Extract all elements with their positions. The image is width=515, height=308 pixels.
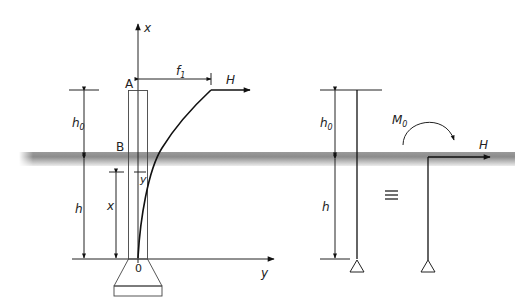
pile-diagram: x y 0 A B H f1 h0 h (0, 0, 515, 308)
middle-h0-label: h0 (320, 116, 333, 132)
equivalence-sign (385, 191, 398, 199)
y-deflection-label: y (139, 173, 147, 186)
moment-label: M0 (392, 113, 407, 129)
middle-figure: h0 h (320, 90, 382, 272)
point-a-label: A (125, 77, 134, 91)
h0-label: h0 (72, 116, 85, 132)
deflection-curve (138, 90, 211, 258)
right-pin-support-icon (421, 260, 435, 272)
x-axis-label: x (143, 21, 152, 35)
right-force-h-label: H (479, 138, 488, 152)
middle-h-label: h (322, 200, 330, 214)
right-figure: H M0 (392, 113, 490, 272)
f1-label: f1 (176, 64, 185, 80)
middle-pin-support-icon (350, 260, 364, 272)
ground-surface (19, 152, 515, 166)
force-h-label: H (226, 73, 235, 87)
y-axis-label: y (260, 266, 269, 280)
pile-footing-plate (114, 286, 162, 296)
point-b-label: B (116, 140, 124, 154)
x-depth-label: x (106, 199, 115, 213)
moment-arc-icon (403, 122, 454, 145)
h-label: h (75, 202, 83, 216)
origin-label: 0 (135, 262, 142, 275)
